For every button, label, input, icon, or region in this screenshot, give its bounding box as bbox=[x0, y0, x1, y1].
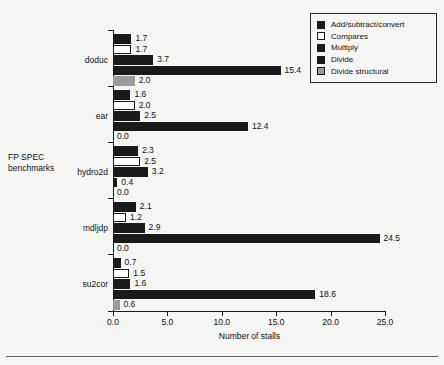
legend-item-add-subtract-convert: Add/subtract/convert bbox=[317, 19, 431, 31]
x-axis-tick-label: 0.0 bbox=[107, 317, 119, 327]
chart-figure: Add/subtract/convert Compares Multiply D… bbox=[0, 0, 444, 365]
bar bbox=[113, 269, 129, 279]
bar bbox=[113, 279, 130, 289]
category-label-doduc: doduc bbox=[60, 55, 108, 65]
bar-value-label: 2.5 bbox=[144, 110, 156, 120]
bar bbox=[113, 300, 120, 310]
bar-row: 0.4 bbox=[113, 178, 385, 188]
bar-value-label: 2.9 bbox=[149, 222, 161, 232]
bar-value-label: 3.7 bbox=[157, 54, 169, 64]
x-axis-tick bbox=[385, 312, 386, 316]
x-axis-tick-label: 25.0 bbox=[377, 317, 394, 327]
x-axis-tick bbox=[331, 312, 332, 316]
bar-value-label: 1.5 bbox=[133, 268, 145, 278]
bar-row: 24.5 bbox=[113, 234, 385, 244]
bar bbox=[113, 290, 315, 300]
bar-value-label: 2.5 bbox=[144, 156, 156, 166]
y-axis-label-line1: FP SPEC bbox=[8, 152, 80, 163]
bar-value-label: 1.7 bbox=[135, 44, 147, 54]
bar-row: 1.6 bbox=[113, 90, 385, 100]
bar-row: 0.0 bbox=[113, 188, 385, 198]
bar bbox=[113, 90, 130, 100]
bar bbox=[113, 101, 135, 111]
bar-value-label: 1.2 bbox=[130, 212, 142, 222]
y-axis-tick bbox=[108, 30, 113, 31]
bar-value-label: 0.0 bbox=[117, 243, 129, 253]
bar-row: 2.5 bbox=[113, 157, 385, 167]
bar-row: 3.7 bbox=[113, 55, 385, 65]
bar bbox=[113, 66, 281, 76]
legend-swatch-add-subtract-convert bbox=[317, 21, 325, 29]
bar bbox=[113, 223, 145, 233]
bar bbox=[113, 45, 131, 55]
category-label-hydro2d: hydro2d bbox=[60, 167, 108, 177]
bar-row: 1.5 bbox=[113, 269, 385, 279]
bar-value-label: 1.7 bbox=[135, 33, 147, 43]
bar-value-label: 18.6 bbox=[319, 289, 336, 299]
bar bbox=[113, 167, 148, 177]
bar-group: 0.71.51.618.60.6 bbox=[113, 258, 385, 310]
bar-value-label: 2.3 bbox=[142, 145, 154, 155]
bar-value-label: 24.5 bbox=[384, 233, 401, 243]
bar-value-label: 1.6 bbox=[134, 89, 146, 99]
bar-row: 12.4 bbox=[113, 122, 385, 132]
bar-row: 3.2 bbox=[113, 167, 385, 177]
plot-area: 1.71.73.715.42.01.62.02.512.40.02.32.53.… bbox=[113, 30, 385, 311]
bar-row: 18.6 bbox=[113, 290, 385, 300]
bar-row: 0.0 bbox=[113, 132, 385, 142]
x-axis-tick bbox=[276, 312, 277, 316]
bar bbox=[113, 34, 131, 44]
bar-value-label: 2.0 bbox=[139, 75, 151, 85]
bar-value-label: 15.4 bbox=[285, 65, 302, 75]
x-axis-tick-label: 20.0 bbox=[322, 317, 339, 327]
category-label-ear: ear bbox=[60, 111, 108, 121]
bar-value-label: 12.4 bbox=[252, 121, 269, 131]
bottom-divider bbox=[6, 356, 438, 357]
bar bbox=[113, 202, 136, 212]
bar-value-label: 1.6 bbox=[134, 278, 146, 288]
bar-row: 1.6 bbox=[113, 279, 385, 289]
bar-row: 0.6 bbox=[113, 300, 385, 310]
bar-value-label: 0.6 bbox=[124, 299, 136, 309]
y-axis-tick bbox=[108, 142, 113, 143]
bar bbox=[113, 111, 140, 121]
bar-row: 0.0 bbox=[113, 244, 385, 254]
bar-value-label: 0.0 bbox=[117, 131, 129, 141]
bar-row: 15.4 bbox=[113, 66, 385, 76]
bar-row: 2.5 bbox=[113, 111, 385, 121]
y-axis-tick bbox=[108, 86, 113, 87]
bar bbox=[113, 234, 380, 244]
y-axis-tick bbox=[108, 198, 113, 199]
bar-row: 1.7 bbox=[113, 45, 385, 55]
x-axis-line bbox=[113, 311, 386, 312]
bar bbox=[113, 76, 135, 86]
bar-row: 1.2 bbox=[113, 213, 385, 223]
bar bbox=[113, 55, 153, 65]
bar-group: 2.32.53.20.40.0 bbox=[113, 146, 385, 198]
bar-group: 1.71.73.715.42.0 bbox=[113, 34, 385, 86]
bar-row: 2.3 bbox=[113, 146, 385, 156]
bar-value-label: 2.1 bbox=[140, 201, 152, 211]
bar-row: 2.9 bbox=[113, 223, 385, 233]
bar-row: 0.7 bbox=[113, 258, 385, 268]
bar-value-label: 0.4 bbox=[121, 177, 133, 187]
x-axis-tick-label: 15.0 bbox=[268, 317, 285, 327]
bar-value-label: 3.2 bbox=[152, 166, 164, 176]
bar-group: 1.62.02.512.40.0 bbox=[113, 90, 385, 142]
bar bbox=[113, 258, 121, 268]
bar bbox=[113, 146, 138, 156]
category-label-su2cor: su2cor bbox=[60, 279, 108, 289]
x-axis-tick bbox=[113, 312, 114, 316]
bar-row: 2.1 bbox=[113, 202, 385, 212]
bar-row: 2.0 bbox=[113, 101, 385, 111]
x-axis-tick bbox=[222, 312, 223, 316]
x-axis-tick bbox=[167, 312, 168, 316]
bar-value-label: 0.7 bbox=[125, 257, 137, 267]
bar-row: 2.0 bbox=[113, 76, 385, 86]
y-axis-tick bbox=[108, 254, 113, 255]
bar bbox=[113, 213, 126, 223]
bar bbox=[113, 157, 140, 167]
bar bbox=[113, 122, 248, 132]
bar-group: 2.11.22.924.50.0 bbox=[113, 202, 385, 254]
bar-row: 1.7 bbox=[113, 34, 385, 44]
